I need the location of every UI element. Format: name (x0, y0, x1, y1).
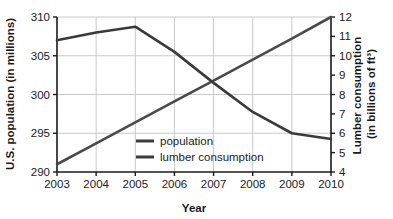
x-axis-tick-label: 2003 (44, 178, 70, 190)
y-axis-left-title: U.S. population (in millions) (4, 18, 16, 170)
x-axis-tick-label: 2008 (240, 178, 266, 190)
x-axis-tick-label: 2005 (122, 178, 148, 190)
y-axis-right-tick-label: 6 (339, 127, 345, 139)
x-axis-tick-label: 2010 (318, 178, 344, 190)
y-axis-left-tick-label: 295 (31, 127, 50, 139)
x-axis-tick-label: 2007 (201, 178, 227, 190)
y-axis-left-tick-label: 305 (31, 50, 50, 62)
y-axis-right-tick-label: 9 (339, 69, 345, 81)
y-axis-right-tick-label: 8 (339, 89, 345, 101)
legend-label: lumber consumption (160, 151, 264, 163)
y-axis-right-tick-label: 5 (339, 147, 345, 159)
x-axis-tick-label: 2009 (279, 178, 305, 190)
y-axis-left-tick-label: 300 (31, 89, 50, 101)
line-chart: 290295300305310 456789101112 20032004200… (0, 0, 393, 219)
x-axis-tick-label: 2006 (162, 178, 188, 190)
chart-svg: 290295300305310 456789101112 20032004200… (0, 0, 393, 219)
x-axis-tick-label: 2004 (83, 178, 109, 190)
x-axis-title: Year (182, 202, 207, 214)
y-axis-right-tick-label: 11 (339, 30, 351, 42)
y-axis-right-tick-label: 7 (339, 108, 345, 120)
y-axis-left-tick-label: 290 (31, 166, 50, 178)
y-axis-right-tick-label: 4 (339, 166, 346, 178)
legend-label: population (160, 135, 213, 147)
y-axis-right-tick-label: 12 (339, 11, 352, 23)
y-axis-right-tick-label: 10 (339, 50, 352, 62)
y-axis-left-tick-label: 310 (31, 11, 50, 23)
